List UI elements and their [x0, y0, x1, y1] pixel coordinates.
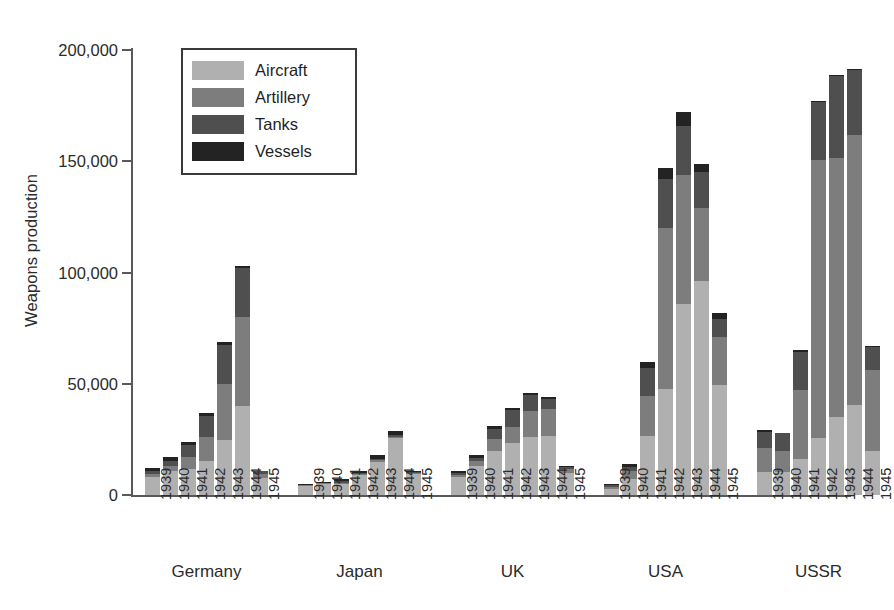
bar-segment-artillery: [793, 390, 808, 459]
stacked-bar: [847, 69, 862, 495]
legend-label: Artillery: [255, 88, 310, 107]
x-axis-year-label: 1940: [316, 500, 331, 560]
legend-item: Artillery: [192, 84, 346, 111]
y-axis-tick: [122, 160, 132, 162]
stacked-bar: [676, 112, 691, 495]
bar-segment-tanks: [775, 433, 790, 450]
stacked-bar: [811, 101, 826, 495]
bar-segment-artillery: [487, 439, 502, 451]
x-axis-year-label: 1941: [640, 500, 655, 560]
y-axis-tick: [122, 49, 132, 51]
y-axis-tick: [122, 494, 132, 496]
bar-segment-tanks: [757, 432, 772, 449]
y-axis-tick-label: 200,000: [18, 41, 118, 60]
x-axis-year-label: 1944: [847, 500, 862, 560]
x-axis-year-label: 1941: [334, 500, 349, 560]
x-axis-year-label: 1945: [559, 500, 574, 560]
x-axis-country-label: USA: [648, 562, 683, 582]
x-axis-year-label: 1943: [676, 500, 691, 560]
chart-legend: AircraftArtilleryTanksVessels: [181, 48, 357, 175]
bar-segment-tanks: [487, 429, 502, 439]
x-axis-year-label: 1939: [451, 500, 466, 560]
country-group: [451, 45, 574, 495]
bar-segment-artillery: [712, 337, 727, 385]
legend-label: Vessels: [255, 142, 312, 161]
y-axis-tick-labels: 050,000100,000150,000200,000: [6, 0, 118, 610]
bar-segment-tanks: [640, 368, 655, 396]
x-axis-year-label: 1945: [253, 500, 268, 560]
stacked-bar: [694, 163, 709, 495]
x-axis-year-label: 1939: [145, 500, 160, 560]
legend-item: Aircraft: [192, 57, 346, 84]
x-axis-year-label: 1940: [469, 500, 484, 560]
bar-segment-tanks: [235, 268, 250, 317]
legend-swatch-artillery: [192, 88, 244, 107]
legend-swatch-tanks: [192, 115, 244, 134]
bar-segment-vessels: [676, 112, 691, 125]
x-axis-year-label: 1945: [406, 500, 421, 560]
x-axis-year-label: 1944: [388, 500, 403, 560]
bar-segment-artillery: [505, 427, 520, 442]
x-axis-country-label: Germany: [172, 562, 242, 582]
bar-segment-tanks: [217, 345, 232, 384]
bar-segment-artillery: [217, 384, 232, 440]
x-axis-year-label: 1941: [487, 500, 502, 560]
x-axis-year-label: 1945: [712, 500, 727, 560]
y-axis-tick-label: 100,000: [18, 263, 118, 282]
x-axis-year-label: 1943: [217, 500, 232, 560]
bar-segment-artillery: [235, 317, 250, 406]
bar-segment-artillery: [523, 411, 538, 436]
x-axis-year-label: 1942: [658, 500, 673, 560]
bar-segment-tanks: [811, 102, 826, 160]
country-group: [757, 45, 880, 495]
bar-segment-artillery: [847, 135, 862, 405]
bar-segment-vessels: [712, 313, 727, 320]
bar-segment-vessels: [658, 168, 673, 179]
bar-segment-vessels: [694, 164, 709, 173]
x-axis-year-label: 1943: [523, 500, 538, 560]
x-axis-year-label: 1940: [622, 500, 637, 560]
x-axis-year-label: 1939: [604, 500, 619, 560]
x-axis-year-label: 1942: [352, 500, 367, 560]
bar-segment-aircraft: [694, 281, 709, 495]
x-axis-year-label: 1941: [793, 500, 808, 560]
x-axis-year-label: 1945: [865, 500, 880, 560]
bar-segment-tanks: [829, 76, 844, 158]
x-axis-year-label: 1940: [163, 500, 178, 560]
bar-segment-artillery: [811, 160, 826, 438]
y-axis-tick: [122, 383, 132, 385]
bar-segment-tanks: [712, 319, 727, 337]
bar-segment-tanks: [865, 347, 880, 370]
stacked-bar: [658, 168, 673, 495]
bar-segment-artillery: [694, 208, 709, 281]
x-axis-country-label: UK: [501, 562, 525, 582]
bar-segment-artillery: [640, 396, 655, 436]
x-axis-year-label: 1944: [235, 500, 250, 560]
bar-segment-tanks: [523, 395, 538, 412]
legend-item: Tanks: [192, 111, 346, 138]
bar-segment-tanks: [541, 399, 556, 409]
x-axis-year-label: 1939: [757, 500, 772, 560]
x-axis-year-label: 1944: [541, 500, 556, 560]
bar-segment-artillery: [658, 228, 673, 389]
x-axis-country-label: Japan: [336, 562, 382, 582]
legend-item: Vessels: [192, 138, 346, 165]
bar-segment-tanks: [793, 352, 808, 391]
bar-segment-tanks: [505, 410, 520, 427]
bar-segment-aircraft: [676, 304, 691, 495]
legend-swatch-vessels: [192, 142, 244, 161]
y-axis-tick: [122, 272, 132, 274]
stacked-bar: [235, 266, 250, 495]
legend-label: Tanks: [255, 115, 298, 134]
legend-label: Aircraft: [255, 61, 307, 80]
bar-segment-tanks: [676, 126, 691, 175]
x-axis-year-label: 1943: [829, 500, 844, 560]
x-axis-year-label: 1942: [199, 500, 214, 560]
bar-segment-tanks: [658, 179, 673, 228]
y-axis-tick-label: 0: [18, 486, 118, 505]
bar-segment-artillery: [199, 437, 214, 461]
stacked-bar: [829, 74, 844, 495]
bar-segment-artillery: [829, 158, 844, 417]
x-axis-year-label: 1944: [694, 500, 709, 560]
